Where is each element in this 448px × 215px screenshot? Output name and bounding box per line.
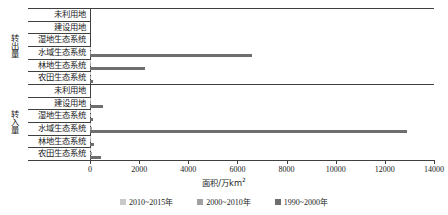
bar-1990~2000年 — [90, 118, 93, 121]
x-axis-tick-label: 14000 — [424, 165, 444, 174]
bar-group — [90, 46, 434, 59]
x-axis-tick-label: 0 — [88, 165, 92, 174]
category-label: 林地生态系统 — [38, 59, 86, 72]
x-axis-tick-label: 12000 — [375, 165, 395, 174]
category-label: 未利用地 — [54, 8, 86, 21]
bar-group — [90, 135, 434, 148]
x-axis-tick-label: 2000 — [131, 165, 147, 174]
x-axis-tick-label: 10000 — [326, 165, 346, 174]
bar-2000~2010年 — [90, 139, 91, 142]
x-axis-tick — [287, 160, 288, 164]
bar-group — [90, 122, 434, 135]
x-axis-tick — [336, 160, 337, 164]
category-label: 湿地生态系统 — [38, 109, 86, 122]
category-row: 水域生态系统 — [0, 122, 448, 135]
category-row: 建设用地 — [0, 97, 448, 110]
category-separator — [28, 147, 90, 148]
bar-group — [90, 71, 434, 84]
category-separator — [28, 122, 90, 123]
category-row: 水域生态系统 — [0, 46, 448, 59]
bar-2000~2010年 — [90, 127, 92, 130]
bar-1990~2000年 — [90, 54, 252, 57]
bar-1990~2000年 — [90, 105, 103, 108]
legend-swatch-icon — [120, 199, 126, 205]
x-axis-tick-label: 4000 — [180, 165, 196, 174]
bar-2010~2015年 — [90, 47, 91, 50]
category-separator — [28, 59, 90, 60]
category-row: 湿地生态系统 — [0, 109, 448, 122]
x-axis-tick — [434, 160, 435, 164]
category-label: 湿地生态系统 — [38, 33, 86, 46]
bar-group — [90, 59, 434, 72]
category-label: 林地生态系统 — [38, 135, 86, 148]
bar-2000~2010年 — [90, 101, 91, 104]
x-axis-tick — [188, 160, 189, 164]
chart-root: 转出量转入量 未利用地建设用地湿地生态系统水域生态系统林地生态系统农田生态系统未… — [0, 0, 448, 215]
bar-group — [90, 84, 434, 97]
category-row: 林地生态系统 — [0, 135, 448, 148]
bar-1990~2000年 — [90, 67, 145, 70]
category-label: 建设用地 — [54, 97, 86, 110]
category-label: 建设用地 — [54, 21, 86, 34]
category-row: 未利用地 — [0, 8, 448, 21]
group-separator-rule — [28, 160, 434, 161]
legend-item[interactable]: 1990~2000年 — [275, 196, 328, 207]
bar-group — [90, 21, 434, 34]
bar-2010~2015年 — [90, 72, 91, 75]
category-separator — [28, 135, 90, 136]
x-axis-tick-label: 8000 — [279, 165, 295, 174]
category-label: 农田生态系统 — [38, 71, 86, 84]
category-row: 农田生态系统 — [0, 147, 448, 160]
category-label: 水域生态系统 — [38, 46, 86, 59]
bar-group — [90, 8, 434, 21]
bar-2010~2015年 — [90, 98, 91, 101]
x-axis-tick — [237, 160, 238, 164]
bar-2000~2010年 — [90, 152, 92, 155]
x-axis-tick-label: 6000 — [229, 165, 245, 174]
bar-2000~2010年 — [90, 51, 91, 54]
category-separator — [28, 33, 90, 34]
category-separator — [28, 109, 90, 110]
bar-2000~2010年 — [90, 63, 91, 66]
category-row: 未利用地 — [0, 84, 448, 97]
bar-group — [90, 147, 434, 160]
category-row: 林地生态系统 — [0, 59, 448, 72]
category-separator — [28, 71, 90, 72]
category-row: 建设用地 — [0, 21, 448, 34]
legend-item[interactable]: 2000~2010年 — [197, 196, 250, 207]
category-separator — [28, 97, 90, 98]
bar-2010~2015年 — [90, 60, 91, 63]
bar-1990~2000年 — [90, 130, 407, 133]
bar-group — [90, 33, 434, 46]
category-label: 农田生态系统 — [38, 147, 86, 160]
category-row: 农田生态系统 — [0, 71, 448, 84]
bar-2010~2015年 — [90, 136, 91, 139]
x-axis-tick — [90, 160, 91, 164]
category-separator — [28, 21, 90, 22]
category-separator — [28, 46, 90, 47]
x-axis-tick — [139, 160, 140, 164]
bar-2000~2010年 — [90, 76, 91, 79]
bar-group — [90, 109, 434, 122]
legend-swatch-icon — [275, 199, 281, 205]
legend-item[interactable]: 2010~2015年 — [120, 196, 173, 207]
bar-2010~2015年 — [90, 123, 91, 126]
legend-label: 2000~2010年 — [206, 196, 250, 207]
legend-swatch-icon — [197, 199, 203, 205]
chart-legend: 2010~2015年2000~2010年1990~2000年 — [0, 196, 448, 207]
bar-2010~2015年 — [90, 148, 91, 151]
x-axis-title: 面积/万km2 — [0, 176, 448, 188]
category-label: 水域生态系统 — [38, 122, 86, 135]
bar-2010~2015年 — [90, 110, 91, 113]
bar-1990~2000年 — [90, 143, 94, 146]
bar-group — [90, 97, 434, 110]
bar-1990~2000年 — [90, 80, 93, 83]
x-axis-title-text: 面积/万km2 — [202, 178, 245, 188]
category-label: 未利用地 — [54, 84, 86, 97]
legend-label: 2010~2015年 — [129, 196, 173, 207]
x-axis-tick — [385, 160, 386, 164]
bar-1990~2000年 — [90, 156, 101, 159]
legend-label: 1990~2000年 — [284, 196, 328, 207]
bar-2000~2010年 — [90, 114, 91, 117]
category-row: 湿地生态系统 — [0, 33, 448, 46]
